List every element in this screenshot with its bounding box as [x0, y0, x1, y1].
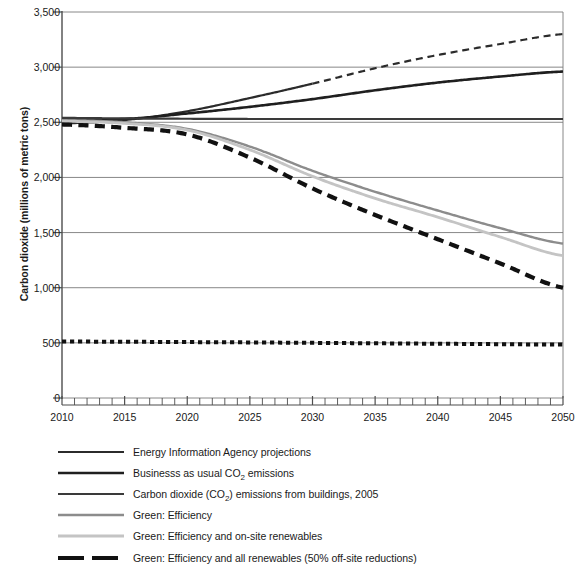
legend-item-green_onsite[interactable]: Green: Efficiency and on-site renewables — [58, 526, 578, 547]
legend-item-green_efficiency[interactable]: Green: Efficiency — [58, 505, 578, 526]
legend-swatch-green_efficiency-icon — [58, 509, 124, 521]
legend-item-eia[interactable]: Energy Information Agency projections — [58, 441, 578, 462]
legend-item-buildings2005[interactable]: Carbon dioxide (CO2) emissions from buil… — [58, 483, 578, 504]
legend-label: Green: Efficiency and all renewables (50… — [133, 552, 417, 564]
legend-label-text: Green: Efficiency and on-site renewables — [133, 530, 322, 542]
x-tick-label: 2025 — [238, 412, 261, 423]
legend-label-text: Green: Efficiency — [133, 509, 212, 521]
y-tick-label: 2,500 — [16, 117, 60, 128]
legend-label: Green: Efficiency and on-site renewables — [133, 530, 322, 542]
y-tick-label: 1,000 — [16, 283, 60, 294]
series-line-eia-dashed — [313, 34, 564, 84]
chart-figure: Carbon dioxide (millions of metric tons)… — [0, 0, 581, 585]
legend-swatch-green_onsite-icon — [58, 530, 124, 542]
legend-label: Energy Information Agency projections — [133, 446, 311, 458]
legend-label-text: Businesss as usual CO — [133, 467, 241, 479]
legend-label-text-suffix: emissions — [245, 467, 294, 479]
x-tick-label: 2010 — [50, 412, 73, 423]
x-tick-label: 2040 — [426, 412, 449, 423]
y-tick-label: 500 — [16, 338, 60, 349]
x-tick-label: 2035 — [363, 412, 386, 423]
legend-swatch-bau-icon — [58, 467, 124, 479]
legend-item-bau[interactable]: Businesss as usual CO2 emissions — [58, 462, 578, 483]
y-tick-label: 3,000 — [16, 62, 60, 73]
x-tick-label: 2015 — [113, 412, 136, 423]
legend-label-text: Carbon dioxide (CO — [133, 488, 225, 500]
x-tick-label: 2045 — [489, 412, 512, 423]
legend-swatch-green_all-icon — [58, 552, 124, 564]
chart-legend: Energy Information Agency projectionsBus… — [58, 441, 578, 568]
series-line-green_all — [62, 124, 563, 287]
legend-label: Green: Efficiency — [133, 509, 212, 521]
legend-label-text: Green: Efficiency and all renewables (50… — [133, 552, 417, 564]
y-tick-label: 1,500 — [16, 228, 60, 239]
legend-label-text: Energy Information Agency projections — [133, 446, 311, 458]
series-line-bau — [62, 72, 563, 120]
legend-label: Businesss as usual CO2 emissions — [133, 467, 294, 479]
series-line-green_efficiency — [62, 120, 563, 244]
x-tick-label: 2020 — [176, 412, 199, 423]
legend-swatch-buildings2005-icon — [58, 488, 124, 500]
series-line-buildings2005 — [62, 118, 563, 119]
x-axis-tick-labels: 201020152020202520302035204020452050 — [0, 0, 581, 40]
legend-item-green_all[interactable]: Green: Efficiency and all renewables (50… — [58, 547, 578, 568]
legend-label-text-suffix: ) emissions from buildings, 2005 — [229, 488, 378, 500]
y-tick-label: 0 — [16, 393, 60, 404]
series-line-baseline_dotted — [62, 342, 563, 345]
y-tick-label: 2,000 — [16, 172, 60, 183]
legend-label: Carbon dioxide (CO2) emissions from buil… — [133, 488, 378, 500]
x-tick-label: 2030 — [301, 412, 324, 423]
y-axis-tick-labels: 05001,0001,5002,0002,5003,0003,500 — [12, 0, 60, 420]
x-tick-label: 2050 — [551, 412, 574, 423]
legend-swatch-eia-icon — [58, 446, 124, 458]
